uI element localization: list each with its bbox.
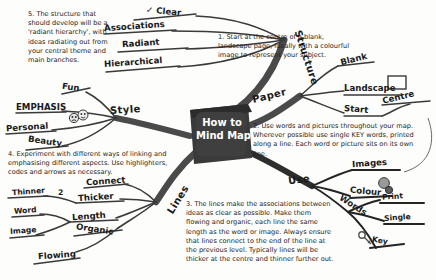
node-label-print[interactable]: Print [382,191,404,201]
sub-line-start [300,96,344,113]
branch-label-style[interactable]: Style [110,103,141,116]
note-3: 3. The lines make the associations betwe… [186,200,334,264]
centre-label-line1: How to [196,116,248,129]
centre-node-label: How to Mind Map [196,116,248,142]
sub-line-image [36,222,70,235]
node-label-start[interactable]: Start [344,103,369,115]
note-2: 2. Use words and pictures throughout you… [253,122,421,159]
node-label-emphasis[interactable]: EMPHASIS [16,102,66,112]
sub-line-landscape [300,91,344,96]
node-label-image[interactable]: Image [10,225,37,236]
branch-label-use[interactable]: Use [287,173,310,186]
note-1: 1. Start at the centre of a blank, lands… [218,33,354,61]
note-4: 4. Experiment with different ways of lin… [8,150,186,178]
sub-line-centre [382,104,410,116]
sub-line-images [312,170,352,186]
node-label-thinner-count[interactable]: 2 [58,188,63,197]
note-5: 5. The structure that should develop wil… [28,10,114,65]
node-label-word[interactable]: Word [14,205,37,216]
sub-line-thinner [44,196,76,203]
node-label-single[interactable]: Single [384,212,411,223]
sub-line-thicker [120,199,156,202]
centre-label-line2: Mind Map [196,129,248,142]
mind-map-canvas: How to Mind Map 5. The structure that sh… [0,0,436,280]
check-icon: ✓ [146,4,154,15]
sub-line-beauty [62,118,116,146]
node-label-landscape[interactable]: Landscape [344,83,396,93]
branch-line-style [116,118,190,136]
underline-emphasis [16,112,66,113]
